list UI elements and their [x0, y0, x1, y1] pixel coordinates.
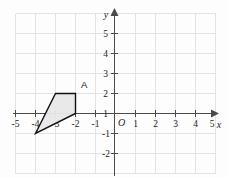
y-axis [111, 8, 119, 176]
x-axis-label: x [216, 119, 222, 130]
y-tick-label-5: 5 [103, 29, 108, 39]
y-tick-label-2: 2 [103, 89, 108, 99]
x-tick-label-1: 1 [133, 119, 138, 129]
x-tick-label-neg1: -1 [92, 119, 100, 129]
y-tick-label-1: 1 [103, 109, 108, 119]
x-tick-label-2: 2 [153, 119, 158, 129]
x-tick-label-5: 5 [210, 119, 215, 129]
x-tick-label-3: 3 [173, 119, 178, 129]
coordinate-plane-svg: -5 -4 -3 -2 -1 1 2 3 4 5 5 4 3 2 1 -1 -2… [0, 0, 228, 178]
x-tick-label-4: 4 [193, 119, 198, 129]
y-tick-label-neg2: -2 [102, 149, 110, 159]
coordinate-plane-figure: -5 -4 -3 -2 -1 1 2 3 4 5 5 4 3 2 1 -1 -2… [0, 0, 228, 178]
x-tick-label-neg2: -2 [72, 119, 80, 129]
shape-label-a: A [81, 79, 88, 90]
y-axis-arrow [111, 8, 119, 16]
y-tick-label-4: 4 [103, 49, 108, 59]
y-tick-label-3: 3 [103, 69, 108, 79]
x-tick-label-neg5: -5 [12, 119, 20, 129]
y-axis-label: y [103, 9, 109, 20]
origin-label: O [118, 117, 125, 128]
y-tick-label-neg1: -1 [102, 129, 110, 139]
